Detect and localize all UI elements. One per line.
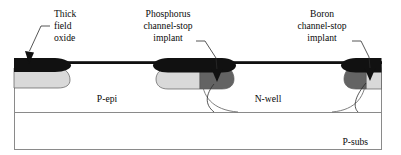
middle-field-oxide-island [153,58,236,89]
semiconductor-cross-section-figure: Thick field oxide Phosphorus channel-sto… [0,0,401,155]
callout-thick-field-oxide: Thick field oxide [25,8,77,64]
region-label-p-subs: P-subs [342,136,368,147]
middle-thick-field-oxide [153,58,236,73]
right-field-oxide-island [341,58,382,89]
phosphorus-label-line-2: channel-stop [143,20,192,31]
left-thick-field-oxide [14,58,71,72]
thick-field-oxide-label-line-3: oxide [54,32,75,43]
thick-field-oxide-label-line-2: field [54,20,72,31]
phosphorus-label-line-1: Phosphorus [146,8,191,19]
cross-section-svg: Thick field oxide Phosphorus channel-sto… [0,0,401,155]
thick-field-oxide-label-line-1: Thick [54,8,77,19]
boron-label-line-2: channel-stop [297,20,346,31]
region-label-p-epi: P-epi [97,93,118,104]
region-label-n-well: N-well [255,93,282,104]
thick-field-oxide-leader-line [30,26,51,51]
right-thick-field-oxide [341,58,382,73]
boron-label-line-3: implant [307,32,337,43]
boron-label-line-1: Boron [310,8,334,19]
left-field-oxide-island [14,58,71,88]
phosphorus-label-line-3: implant [153,32,183,43]
